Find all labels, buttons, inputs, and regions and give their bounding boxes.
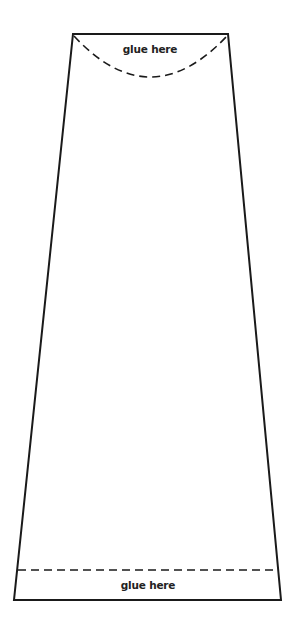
bottom-glue-label: glue here xyxy=(121,579,176,591)
cutout-template-diagram: glue here glue here xyxy=(0,0,295,634)
top-glue-label: glue here xyxy=(123,43,178,55)
trapezoid-outline xyxy=(14,34,281,600)
